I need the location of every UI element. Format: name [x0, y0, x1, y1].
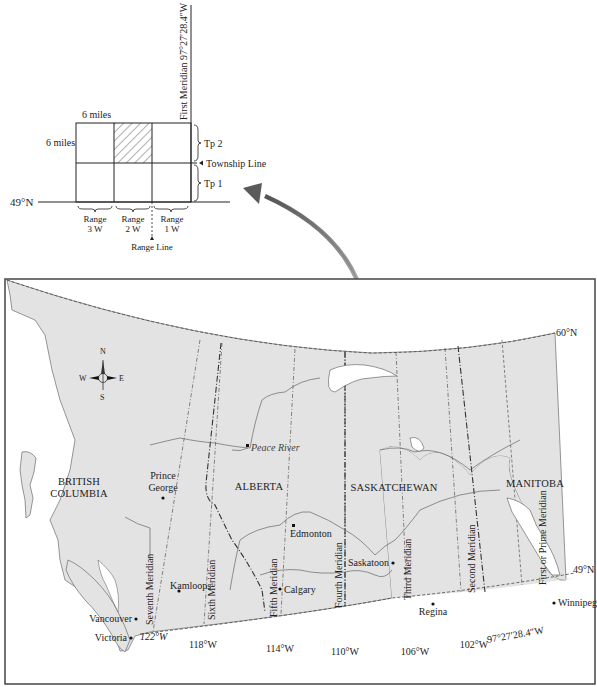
range-line-pointer-icon	[150, 236, 154, 240]
city-marker-icon	[246, 444, 249, 447]
township-range-inset: First Meridian 97°27′28.4″W 49°N 6 miles…	[10, 2, 267, 252]
meridian-label: Fifth Meridian	[268, 558, 279, 617]
city-label: Peace River	[250, 442, 300, 453]
longitude-label: 106°W	[401, 646, 430, 657]
city-marker-icon	[552, 601, 555, 604]
range-label: 2 W	[125, 224, 141, 234]
compass-west-label: W	[79, 374, 87, 383]
longitude-label: 110°W	[331, 646, 360, 657]
city-marker-icon	[391, 561, 394, 564]
province-label: SASKATCHEWAN	[351, 482, 438, 493]
longitude-label: 122°W	[140, 631, 169, 642]
range-label: 1 W	[164, 224, 180, 234]
township-label: Tp 1	[204, 178, 223, 189]
first-meridian-label: First Meridian 97°27′28.4″W	[178, 2, 189, 120]
city-label: Saskatoon	[348, 557, 389, 568]
city-label: Regina	[419, 606, 448, 617]
height-label: 6 miles	[46, 137, 75, 148]
width-label: 6 miles	[82, 109, 111, 120]
meridian-label: Seventh Meridian	[144, 554, 155, 625]
township-brace	[194, 125, 201, 161]
longitude-label: 118°W	[189, 639, 218, 650]
city-label: Victoria	[95, 632, 128, 643]
city-label: Prince	[150, 470, 176, 481]
range-line-label: Range Line	[131, 242, 173, 252]
province-label: BRITISH	[58, 476, 100, 487]
range-label: Range	[122, 214, 145, 224]
township-label: Tp 2	[204, 138, 223, 149]
range-label: 3 W	[87, 224, 103, 234]
township-line-label: Township Line	[206, 158, 267, 169]
western-canada-map: 60°N 49°N	[5, 279, 597, 684]
province-label: MANITOBA	[506, 478, 564, 489]
city-marker-icon	[134, 617, 137, 620]
city-label: Vancouver	[89, 613, 132, 624]
highlighted-township-cell	[114, 123, 152, 163]
meridian-label: First or Prime Meridian	[537, 490, 548, 585]
city-marker-icon	[129, 636, 132, 639]
range-label: Range	[84, 214, 107, 224]
longitude-label: 114°W	[266, 643, 295, 654]
parallel-49-label: 49°N	[10, 196, 33, 208]
city-label: Edmonton	[290, 528, 332, 539]
meridian-label: Fourth Meridian	[333, 542, 344, 608]
province-label: ALBERTA	[235, 481, 284, 492]
meridian-label: Second Meridian	[466, 524, 477, 593]
city-marker-icon	[161, 496, 164, 499]
city-label: George	[148, 482, 178, 493]
compass-north-label: N	[100, 347, 106, 356]
compass-east-label: E	[119, 374, 124, 383]
city-label: Winnipeg	[558, 597, 597, 608]
meridian-label: Sixth Meridian	[206, 560, 217, 620]
parallel-60-label: 60°N	[556, 327, 577, 338]
survey-diagram: First Meridian 97°27′28.4″W 49°N 6 miles…	[0, 0, 597, 687]
city-label: Calgary	[284, 584, 316, 595]
range-label: Range	[161, 214, 184, 224]
city-marker-icon	[292, 524, 295, 527]
province-label: COLUMBIA	[50, 488, 108, 499]
parallel-49-map-label: 49°N	[573, 564, 594, 575]
township-line-pointer-icon	[199, 161, 203, 166]
longitude-label: 102°W	[460, 639, 489, 650]
meridian-label: Third Meridian	[402, 539, 413, 600]
compass-south-label: S	[100, 393, 104, 402]
township-brace	[194, 165, 201, 201]
